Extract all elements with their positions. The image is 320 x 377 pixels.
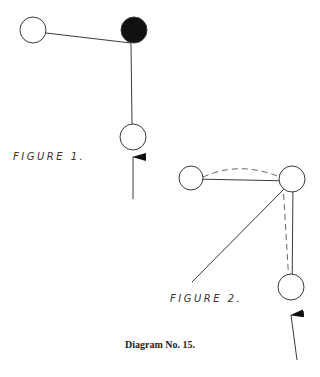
dashed-arc — [203, 169, 282, 178]
node-circle-left — [179, 166, 203, 190]
node-circle-bottom — [278, 274, 304, 300]
link-line — [131, 43, 132, 124]
figure-1 — [20, 17, 147, 199]
node-circle-left — [20, 17, 46, 43]
figure-1-label: FIGURE 1. — [13, 151, 85, 162]
diagram-svg: FIGURE 1. FIGURE 2. Diagram No. 15. — [0, 0, 320, 377]
figure-2 — [179, 166, 305, 360]
link-line — [192, 190, 283, 282]
node-circle-bottom — [120, 124, 146, 150]
link-line — [193, 179, 293, 181]
diagram-caption: Diagram No. 15. — [125, 339, 195, 350]
node-circle-pivot — [121, 17, 147, 43]
node-circle-pivot — [279, 166, 305, 192]
figure-2-label: FIGURE 2. — [170, 293, 242, 304]
force-arrow-icon — [291, 315, 297, 360]
diagram-canvas: FIGURE 1. FIGURE 2. Diagram No. 15. — [0, 0, 320, 377]
link-line — [46, 33, 131, 43]
